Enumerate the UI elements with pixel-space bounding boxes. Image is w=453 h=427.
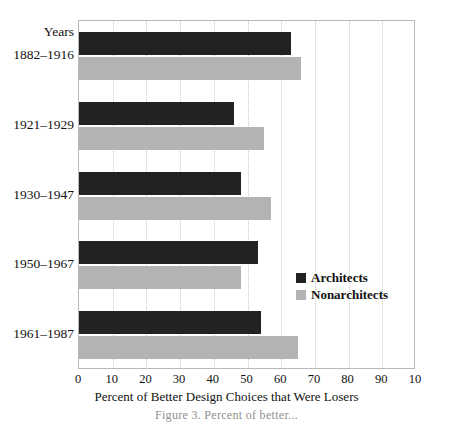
x-tick-40: 40 [198, 372, 228, 387]
gridline [315, 21, 317, 368]
y-axis-label-1882–1916: 1882–1916 [0, 47, 74, 63]
y-axis-label-1950–1967: 1950–1967 [0, 256, 74, 272]
bar-nonarchitects-1961–1987 [79, 336, 298, 359]
bar-architects-1921–1929 [79, 102, 234, 125]
x-tick-90: 90 [366, 372, 396, 387]
gray-square-icon [296, 290, 306, 300]
x-tick-30: 30 [164, 372, 194, 387]
x-tick-60: 60 [265, 372, 295, 387]
plot-area [78, 20, 415, 369]
x-tick-20: 20 [130, 372, 160, 387]
bar-architects-1961–1987 [79, 311, 261, 334]
bar-chart-figure: Years 1882–19161921–19291930–19471950–19… [0, 0, 453, 427]
y-axis-label-1961–1987: 1961–1987 [0, 326, 74, 342]
legend: Architects Nonarchitects [296, 270, 388, 304]
x-tick-50: 50 [232, 372, 262, 387]
x-tick-10: 10 [97, 372, 127, 387]
legend-item-nonarchitects: Nonarchitects [296, 287, 388, 302]
x-tick-0: 0 [63, 372, 93, 387]
x-tick-70: 70 [299, 372, 329, 387]
y-axis-label-1921–1929: 1921–1929 [0, 117, 74, 133]
gridline [349, 21, 351, 368]
bar-architects-1950–1967 [79, 241, 258, 264]
y-axis-label-1930–1947: 1930–1947 [0, 187, 74, 203]
bar-nonarchitects-1921–1929 [79, 127, 264, 150]
legend-label: Architects [311, 270, 368, 286]
y-axis-title: Years [0, 24, 74, 40]
x-axis-title: Percent of Better Design Choices that We… [0, 389, 453, 405]
bar-architects-1882–1916 [79, 32, 291, 55]
bar-nonarchitects-1882–1916 [79, 57, 301, 80]
figure-caption: Figure 3. Percent of better... [0, 408, 453, 423]
x-tick-100: 10 [400, 372, 430, 387]
gridline [382, 21, 384, 368]
legend-item-architects: Architects [296, 270, 388, 285]
legend-label: Nonarchitects [311, 287, 388, 303]
black-square-icon [296, 273, 306, 283]
bar-nonarchitects-1950–1967 [79, 266, 241, 289]
bar-architects-1930–1947 [79, 172, 241, 195]
x-tick-80: 80 [333, 372, 363, 387]
bar-nonarchitects-1930–1947 [79, 197, 271, 220]
